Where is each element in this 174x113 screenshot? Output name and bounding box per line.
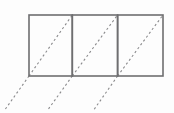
diagonal-extension-3 (93, 76, 118, 111)
diagonal-1 (29, 15, 72, 76)
diagonal-2 (72, 15, 117, 76)
diagonal-3 (118, 15, 163, 76)
diagonal-group (29, 15, 163, 76)
diagonal-extension-group (4, 76, 118, 111)
figure-canvas (0, 0, 174, 113)
diagonal-extension-1 (4, 76, 29, 111)
diagonal-extension-2 (47, 76, 72, 111)
box-outline-group (29, 15, 163, 76)
figure-svg (0, 0, 174, 113)
